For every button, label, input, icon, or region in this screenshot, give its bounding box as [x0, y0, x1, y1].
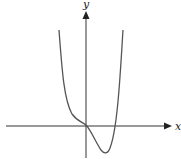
- y-axis-arrow-icon: [83, 11, 90, 19]
- function-graph: x y: [0, 0, 181, 159]
- function-curve: [59, 30, 123, 153]
- y-axis-label: y: [82, 0, 90, 11]
- x-axis-label: x: [175, 120, 181, 133]
- x-axis-arrow-icon: [164, 123, 172, 130]
